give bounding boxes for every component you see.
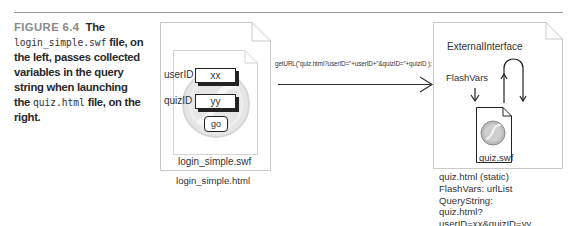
geturl-code-label: getURL("quiz.html?userID="+userID+"&quiz…: [275, 60, 432, 67]
note-line: FlashVars: urlList: [439, 183, 570, 195]
right-notes: quiz.html (static) FlashVars: urlList Qu…: [439, 171, 570, 226]
userid-input[interactable]: xx: [195, 68, 236, 83]
userid-label: userID: [164, 69, 193, 80]
quizid-input[interactable]: yy: [195, 94, 236, 109]
note-line: quiz.html?userID=xx&quizID=yy: [439, 206, 570, 226]
external-interface-label: ExternalInterface: [447, 41, 523, 52]
swf-filename-label: login_simple.swf: [178, 156, 251, 167]
go-button[interactable]: go: [204, 116, 228, 132]
flash-logo-icon: [481, 121, 505, 145]
note-line: quiz.html (static): [439, 171, 570, 183]
flashvars-label: FlashVars: [446, 72, 488, 83]
quizid-label: quizID: [164, 95, 192, 106]
html-filename-label: login_simple.html: [176, 175, 250, 186]
quiz-swf-label: quiz.swf: [479, 152, 513, 163]
note-line: QueryString:: [439, 195, 570, 207]
